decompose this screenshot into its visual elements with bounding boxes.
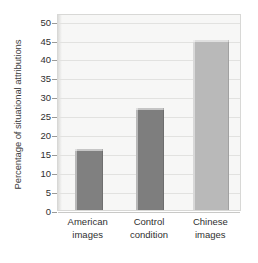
y-axis-title: Percentage of situational attributions bbox=[8, 7, 26, 222]
bar-fill bbox=[136, 108, 164, 210]
y-axis-tick-label-25: 25 bbox=[31, 111, 51, 122]
plot-area bbox=[57, 14, 241, 211]
y-axis-tick-label-45: 45 bbox=[31, 35, 51, 46]
bar-right-shadow bbox=[228, 40, 229, 210]
bar-right-shadow bbox=[102, 149, 103, 210]
bar-left-highlight bbox=[75, 149, 77, 210]
y-axis-tick-30 bbox=[52, 98, 57, 99]
bar-left-highlight bbox=[136, 108, 138, 210]
x-axis-label-line: images bbox=[57, 229, 118, 242]
bar-left-highlight bbox=[193, 40, 195, 210]
y-axis-tick-label-0: 0 bbox=[31, 206, 51, 217]
bar-top-highlight bbox=[193, 40, 229, 42]
bar-chart-figure: Percentage of situational attributions 0… bbox=[0, 0, 258, 263]
x-axis-label-line: Control bbox=[118, 216, 179, 229]
gridline-0 bbox=[58, 212, 240, 213]
x-axis-label-3: Chineseimages bbox=[180, 216, 241, 241]
y-axis-tick-label-5: 5 bbox=[31, 187, 51, 198]
x-axis-label-line: images bbox=[180, 229, 241, 242]
bar-2 bbox=[136, 108, 164, 210]
y-axis-tick-label-40: 40 bbox=[31, 54, 51, 65]
x-axis-label-line: Chinese bbox=[180, 216, 241, 229]
y-axis-tick-labels: 05101520253035404550 bbox=[30, 14, 51, 211]
y-axis-tick-20 bbox=[52, 136, 57, 137]
x-axis-label-line: American bbox=[57, 216, 118, 229]
bar-3 bbox=[193, 40, 229, 210]
y-axis-tick-50 bbox=[52, 23, 57, 24]
x-axis-label-2: Controlcondition bbox=[118, 216, 179, 241]
y-axis-tick-35 bbox=[52, 79, 57, 80]
y-axis-tick-label-30: 30 bbox=[31, 92, 51, 103]
x-axis-category-labels: AmericanimagesControlconditionChineseima… bbox=[57, 216, 241, 260]
y-axis-tick-45 bbox=[52, 42, 57, 43]
y-axis-tick-label-10: 10 bbox=[31, 168, 51, 179]
bar-fill bbox=[193, 40, 229, 210]
y-axis-tick-label-50: 50 bbox=[31, 16, 51, 27]
bar-fill bbox=[75, 149, 103, 210]
y-axis-tick-label-35: 35 bbox=[31, 73, 51, 84]
y-axis-tick-40 bbox=[52, 60, 57, 61]
y-axis-tick-0 bbox=[52, 212, 57, 213]
y-axis-tick-label-20: 20 bbox=[31, 130, 51, 141]
y-axis-tick-5 bbox=[52, 193, 57, 194]
bar-right-shadow bbox=[163, 108, 164, 210]
y-axis-tick-25 bbox=[52, 117, 57, 118]
gridline-50 bbox=[58, 23, 240, 24]
bar-1 bbox=[75, 149, 103, 210]
x-axis-label-1: Americanimages bbox=[57, 216, 118, 241]
bar-top-highlight bbox=[136, 108, 164, 110]
y-axis-tick-15 bbox=[52, 155, 57, 156]
y-axis-tick-label-15: 15 bbox=[31, 149, 51, 160]
bar-top-highlight bbox=[75, 149, 103, 151]
y-axis-tick-10 bbox=[52, 174, 57, 175]
x-axis-label-line: condition bbox=[118, 229, 179, 242]
